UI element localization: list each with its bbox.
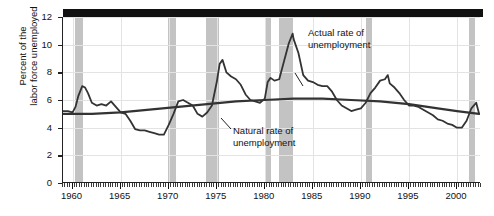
y-axis-tick-label: 6 bbox=[26, 95, 52, 105]
x-axis-minor-tick bbox=[446, 183, 447, 187]
x-axis-minor-tick bbox=[221, 183, 222, 187]
natural-rate-annotation: Natural rate of unemployment bbox=[233, 125, 295, 148]
y-axis-tick-mark bbox=[58, 45, 63, 46]
x-axis-minor-tick bbox=[470, 183, 471, 187]
x-axis-minor-tick bbox=[478, 183, 479, 187]
x-axis-minor-tick bbox=[355, 183, 356, 187]
x-axis-minor-tick bbox=[79, 183, 80, 187]
x-axis-minor-tick bbox=[290, 183, 291, 187]
x-axis-minor-tick bbox=[333, 183, 334, 187]
x-axis-minor-tick bbox=[160, 183, 161, 187]
x-axis-minor-tick bbox=[187, 183, 188, 187]
x-axis-minor-tick bbox=[348, 183, 349, 187]
x-axis-minor-tick bbox=[163, 183, 164, 187]
x-axis-minor-tick bbox=[451, 183, 452, 187]
x-axis-minor-tick bbox=[242, 183, 243, 187]
x-axis-minor-tick bbox=[173, 183, 174, 187]
x-axis-minor-tick bbox=[353, 183, 354, 187]
x-axis-minor-tick bbox=[153, 183, 154, 187]
x-axis-minor-tick bbox=[206, 183, 207, 187]
x-axis-minor-tick bbox=[329, 183, 330, 187]
x-axis-tick-label: 1965 bbox=[100, 191, 140, 201]
x-axis-minor-tick bbox=[458, 183, 459, 187]
x-axis-tick-marks bbox=[62, 183, 480, 188]
x-axis-minor-tick bbox=[156, 183, 157, 187]
x-axis-minor-tick bbox=[230, 183, 231, 187]
x-axis-minor-tick bbox=[302, 183, 303, 187]
x-axis-minor-tick bbox=[319, 183, 320, 187]
x-axis-minor-tick bbox=[386, 183, 387, 187]
x-axis-minor-tick bbox=[74, 183, 75, 187]
x-axis-minor-tick bbox=[309, 183, 310, 187]
x-axis-minor-tick bbox=[62, 183, 63, 187]
x-axis-minor-tick bbox=[266, 183, 267, 187]
x-axis-major-tick bbox=[216, 183, 217, 189]
x-axis-minor-tick bbox=[218, 183, 219, 187]
x-axis-minor-tick bbox=[439, 183, 440, 187]
x-axis-minor-tick bbox=[269, 183, 270, 187]
x-axis-minor-tick bbox=[324, 183, 325, 187]
x-axis-major-tick bbox=[264, 183, 265, 189]
x-axis-minor-tick bbox=[398, 183, 399, 187]
x-axis-minor-tick bbox=[475, 183, 476, 187]
y-axis-tick-label: 4 bbox=[26, 123, 52, 133]
x-axis-minor-tick bbox=[124, 183, 125, 187]
annotation-leader-lines bbox=[63, 17, 480, 183]
x-axis-minor-tick bbox=[278, 183, 279, 187]
x-axis-tick-label: 1980 bbox=[244, 191, 284, 201]
x-axis-minor-tick bbox=[391, 183, 392, 187]
x-axis-minor-tick bbox=[151, 183, 152, 187]
x-axis-minor-tick bbox=[427, 183, 428, 187]
x-axis-minor-tick bbox=[338, 183, 339, 187]
x-axis-minor-tick bbox=[305, 183, 306, 187]
x-axis-minor-tick bbox=[201, 183, 202, 187]
x-axis-minor-tick bbox=[177, 183, 178, 187]
x-axis-minor-tick bbox=[93, 183, 94, 187]
x-axis-major-tick bbox=[360, 183, 361, 189]
x-axis-minor-tick bbox=[132, 183, 133, 187]
x-axis-minor-tick bbox=[76, 183, 77, 187]
x-axis-minor-tick bbox=[285, 183, 286, 187]
x-axis-minor-tick bbox=[182, 183, 183, 187]
x-axis-minor-tick bbox=[223, 183, 224, 187]
x-axis-minor-tick bbox=[189, 183, 190, 187]
x-axis-minor-tick bbox=[273, 183, 274, 187]
x-axis-minor-tick bbox=[213, 183, 214, 187]
x-axis-minor-tick bbox=[444, 183, 445, 187]
x-axis-minor-tick bbox=[434, 183, 435, 187]
y-axis-tick-mark bbox=[58, 128, 63, 129]
x-axis-minor-tick bbox=[345, 183, 346, 187]
x-axis-minor-tick bbox=[336, 183, 337, 187]
x-axis-minor-tick bbox=[144, 183, 145, 187]
x-axis-minor-tick bbox=[449, 183, 450, 187]
x-axis-minor-tick bbox=[86, 183, 87, 187]
x-axis-minor-tick bbox=[396, 183, 397, 187]
x-axis-minor-tick bbox=[437, 183, 438, 187]
x-axis-major-tick bbox=[312, 183, 313, 189]
x-axis-minor-tick bbox=[252, 183, 253, 187]
y-axis-tick-mark bbox=[58, 72, 63, 73]
x-axis-minor-tick bbox=[81, 183, 82, 187]
x-axis-minor-tick bbox=[283, 183, 284, 187]
x-axis-tick-label: 1990 bbox=[340, 191, 380, 201]
x-axis-minor-tick bbox=[261, 183, 262, 187]
x-axis-minor-tick bbox=[100, 183, 101, 187]
x-axis-minor-tick bbox=[225, 183, 226, 187]
x-axis-minor-tick bbox=[180, 183, 181, 187]
x-axis-major-tick bbox=[408, 183, 409, 189]
x-axis-minor-tick bbox=[249, 183, 250, 187]
x-axis-minor-tick bbox=[237, 183, 238, 187]
x-axis-minor-tick bbox=[148, 183, 149, 187]
x-axis-minor-tick bbox=[406, 183, 407, 187]
x-axis-minor-tick bbox=[377, 183, 378, 187]
x-axis-minor-tick bbox=[127, 183, 128, 187]
x-axis-minor-tick bbox=[175, 183, 176, 187]
x-axis-minor-tick bbox=[293, 183, 294, 187]
x-axis-minor-tick bbox=[245, 183, 246, 187]
actual-rate-annotation: Actual rate of unemployment bbox=[308, 27, 370, 50]
x-axis-minor-tick bbox=[365, 183, 366, 187]
x-axis-minor-tick bbox=[300, 183, 301, 187]
x-axis-minor-tick bbox=[129, 183, 130, 187]
x-axis-minor-tick bbox=[271, 183, 272, 187]
plot-area bbox=[62, 17, 480, 183]
